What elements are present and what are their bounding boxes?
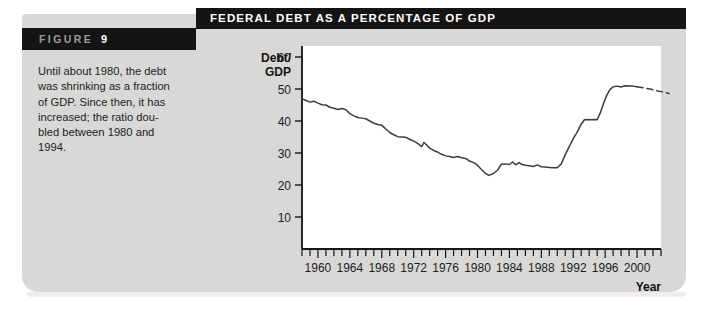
figure-label-bar: FIGURE 9 bbox=[22, 28, 196, 50]
caption-line: bled between 1980 and bbox=[38, 125, 204, 140]
chart-title-bar: FEDERAL DEBT AS A PERCENTAGE OF GDP bbox=[196, 8, 686, 29]
figure-label-number: 9 bbox=[101, 33, 107, 45]
figure-caption: Until about 1980, the debt was shrinking… bbox=[38, 64, 204, 156]
caption-line: was shrinking as a fraction bbox=[38, 79, 204, 94]
chart-title: FEDERAL DEBT AS A PERCENTAGE OF GDP bbox=[210, 12, 496, 24]
figure-label-word: FIGURE bbox=[39, 33, 93, 45]
caption-line: increased; the ratio dou- bbox=[38, 110, 204, 125]
caption-line: of GDP. Since then, it has bbox=[38, 95, 204, 110]
card-drop-shadow bbox=[26, 292, 686, 297]
caption-line: 1994. bbox=[38, 140, 204, 155]
caption-line: Until about 1980, the debt bbox=[38, 64, 204, 79]
